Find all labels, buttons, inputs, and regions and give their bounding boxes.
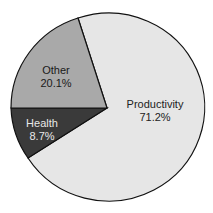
- label-health-name: Health: [24, 117, 60, 130]
- label-productivity-value: 71.2%: [120, 111, 190, 124]
- label-productivity: Productivity 71.2%: [120, 98, 190, 124]
- label-other: Other 20.1%: [38, 64, 74, 90]
- label-other-value: 20.1%: [38, 77, 74, 90]
- label-health-value: 8.7%: [24, 130, 60, 143]
- label-health: Health 8.7%: [24, 117, 60, 143]
- label-other-name: Other: [38, 64, 74, 77]
- label-productivity-name: Productivity: [120, 98, 190, 111]
